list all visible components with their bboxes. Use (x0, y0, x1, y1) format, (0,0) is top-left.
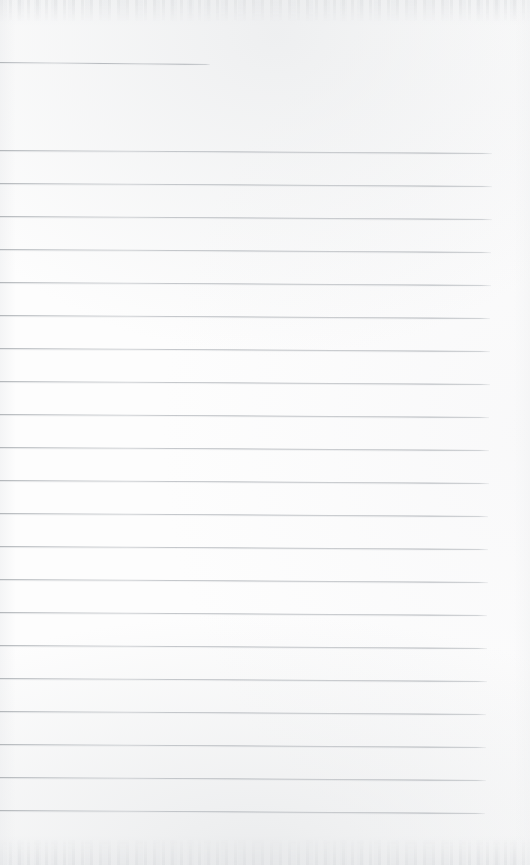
rule-line (0, 447, 489, 451)
rule-line (0, 678, 487, 682)
rule-line (0, 744, 486, 748)
rule-line (0, 249, 491, 253)
rule-line (0, 546, 488, 550)
rule-line (0, 216, 492, 220)
ruled-lines-layer (0, 0, 530, 865)
rule-line (0, 810, 485, 814)
rule-line-short (0, 62, 210, 65)
rule-line (0, 612, 487, 616)
rule-line (0, 150, 492, 154)
rule-line (0, 480, 489, 484)
rule-line (0, 315, 490, 319)
rule-line (0, 645, 487, 649)
rule-line (0, 513, 488, 517)
rule-line (0, 183, 492, 187)
rule-line (0, 381, 490, 385)
rule-line (0, 414, 489, 418)
rule-line (0, 711, 486, 715)
rule-line (0, 348, 490, 352)
rule-line (0, 777, 486, 781)
rule-line (0, 579, 488, 583)
scanned-page (0, 0, 530, 865)
rule-line (0, 282, 491, 286)
